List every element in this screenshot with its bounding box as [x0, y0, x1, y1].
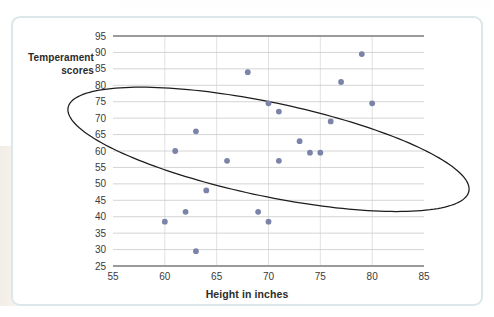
y-tick-25: 25 — [95, 261, 107, 272]
data-point: 70, 74.5 — [266, 100, 272, 106]
data-point: 64, 48 — [203, 188, 209, 194]
data-point: 66, 57 — [224, 158, 230, 164]
data-point: 73, 63 — [297, 138, 303, 144]
x-tick-80: 80 — [367, 271, 379, 282]
y-tick-50: 50 — [95, 178, 107, 189]
y-tick-75: 75 — [95, 96, 107, 107]
x-tick-70: 70 — [263, 271, 275, 282]
data-point: 77, 81 — [338, 79, 344, 85]
data-point: 75, 59.5 — [317, 150, 323, 156]
y-tick-90: 90 — [95, 47, 107, 58]
data-point: 60, 38.5 — [162, 219, 168, 225]
data-point: 80, 74.5 — [369, 100, 375, 106]
y-tick-60: 60 — [95, 146, 107, 157]
data-point: 74, 59.5 — [307, 150, 313, 156]
y-tick-70: 70 — [95, 113, 107, 124]
scatter-plot: 253035404550556065707580859095 556065707… — [0, 0, 494, 317]
y-tick-65: 65 — [95, 129, 107, 140]
data-point: 61, 60 — [172, 148, 178, 154]
data-point: 79, 89.5 — [359, 51, 365, 57]
data-point: 71, 57 — [276, 158, 282, 164]
x-tick-75: 75 — [315, 271, 327, 282]
data-point: 63, 66 — [193, 128, 199, 134]
y-tick-55: 55 — [95, 162, 107, 173]
y-tick-95: 95 — [95, 31, 107, 42]
data-point: 68, 84 — [245, 69, 251, 75]
data-point: 76, 69 — [328, 119, 334, 125]
data-point: 69, 41.5 — [255, 209, 261, 215]
data-point: 62, 41.5 — [183, 209, 189, 215]
y-tick-40: 40 — [95, 211, 107, 222]
y-tick-30: 30 — [95, 244, 107, 255]
x-tick-55: 55 — [107, 271, 119, 282]
y-tick-35: 35 — [95, 228, 107, 239]
data-point: 63, 29.5 — [193, 248, 199, 254]
data-point: 70, 38.5 — [266, 219, 272, 225]
y-tick-85: 85 — [95, 63, 107, 74]
x-tick-60: 60 — [159, 271, 171, 282]
data-point: 71, 72 — [276, 109, 282, 115]
x-tick-85: 85 — [418, 271, 430, 282]
x-axis-tick-labels: 55606570758085 — [107, 271, 430, 282]
x-tick-65: 65 — [211, 271, 223, 282]
y-tick-45: 45 — [95, 195, 107, 206]
y-axis-tick-labels: 253035404550556065707580859095 — [95, 31, 107, 272]
